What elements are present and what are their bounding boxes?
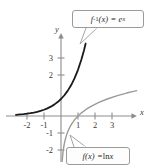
y-axis-label: y xyxy=(54,24,59,34)
callout-inverse-arg: (x) = e xyxy=(99,14,123,24)
y-tick-label-neg1: -1 xyxy=(46,128,53,138)
x-tick-label-3: 3 xyxy=(110,120,114,130)
x-tick-label-2: 2 xyxy=(93,120,97,130)
x-tick-label-1: 1 xyxy=(76,120,80,130)
callout-inverse-exp-var: x xyxy=(122,16,125,22)
y-tick-label-3: 3 xyxy=(49,53,53,63)
y-tick-label-2: 2 xyxy=(49,70,53,80)
callout-inverse-function: f-1(x) = ex xyxy=(72,10,144,28)
y-tick-label-neg2: -2 xyxy=(46,145,53,155)
x-tick-label-neg2: -2 xyxy=(23,120,30,130)
callout-tail-inverse xyxy=(80,28,97,44)
callout-tail-log xyxy=(70,135,86,147)
math-figure: -2 -1 1 2 3 3 2 -1 -2 x y f-1(x) = ex f(… xyxy=(0,0,155,168)
callout-log-arg: (x) = xyxy=(85,151,103,161)
callout-log-ln: ln xyxy=(103,151,110,161)
x-axis-label: x xyxy=(139,107,144,117)
callout-log-var: x xyxy=(110,151,114,161)
callout-log-function: f(x) = ln x xyxy=(66,147,130,165)
